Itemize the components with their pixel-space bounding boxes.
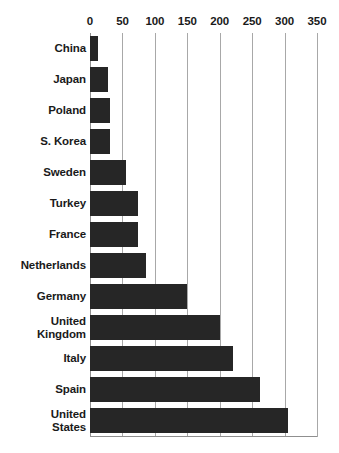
bar-sweden[interactable] [90,160,126,185]
x-axis-tick-labels: 050100150200250300350 [0,0,339,33]
gridline-350 [317,33,318,437]
bar-track [90,126,317,157]
category-label-s-korea: S. Korea [0,126,86,157]
bottom-axis-line [90,436,317,437]
category-label-line: United [51,408,86,421]
bar-track [90,33,317,64]
bar-italy[interactable] [90,346,233,371]
bar-united-states[interactable] [90,408,288,433]
category-label-line: France [49,228,86,241]
category-label-line: Poland [48,104,86,117]
category-label-poland: Poland [0,95,86,126]
category-label-line: Spain [55,383,86,396]
category-label-line: Turkey [50,197,86,210]
bar-track [90,281,317,312]
category-label-sweden: Sweden [0,157,86,188]
x-tick-label-50: 50 [116,15,129,27]
category-label-line: Netherlands [21,259,86,272]
bar-germany[interactable] [90,284,187,309]
bar-track [90,219,317,250]
category-label-line: Sweden [43,166,86,179]
category-label-japan: Japan [0,64,86,95]
bar-japan[interactable] [90,67,108,92]
x-tick-label-0: 0 [87,15,93,27]
category-label-italy: Italy [0,343,86,374]
category-label-line: United [37,315,86,328]
x-tick-label-150: 150 [178,15,197,27]
category-label-netherlands: Netherlands [0,250,86,281]
bar-track [90,250,317,281]
category-label-spain: Spain [0,374,86,405]
x-tick-label-100: 100 [145,15,164,27]
x-tick-label-350: 350 [308,15,327,27]
category-label-line: S. Korea [40,135,86,148]
category-label-united-states: UnitedStates [0,405,86,436]
x-tick-label-300: 300 [275,15,294,27]
bar-track [90,343,317,374]
x-tick-label-200: 200 [210,15,229,27]
bar-s-korea[interactable] [90,129,110,154]
category-label-line: Japan [53,73,86,86]
bar-united-kingdom[interactable] [90,315,220,340]
category-label-china: China [0,33,86,64]
bar-turkey[interactable] [90,191,138,216]
category-label-germany: Germany [0,281,86,312]
bar-track [90,374,317,405]
bar-track [90,157,317,188]
plot-area [90,33,317,437]
category-label-united-kingdom: UnitedKingdom [0,312,86,343]
bar-netherlands[interactable] [90,253,146,278]
bar-track [90,188,317,219]
category-label-line: Germany [37,290,86,303]
category-label-france: France [0,219,86,250]
bars-layer [90,33,317,437]
bar-poland[interactable] [90,98,110,123]
bar-track [90,312,317,343]
category-label-turkey: Turkey [0,188,86,219]
category-label-line: China [55,42,86,55]
bar-china[interactable] [90,36,98,61]
category-label-line: Italy [63,352,86,365]
bar-chart: 050100150200250300350 ChinaJapanPolandS.… [0,0,339,453]
category-label-line: Kingdom [37,328,86,341]
bar-spain[interactable] [90,377,260,402]
bar-track [90,64,317,95]
category-axis-labels: ChinaJapanPolandS. KoreaSwedenTurkeyFran… [0,33,86,437]
category-label-line: States [51,421,86,434]
bar-track [90,95,317,126]
bar-track [90,405,317,436]
x-tick-label-250: 250 [243,15,262,27]
bar-france[interactable] [90,222,138,247]
